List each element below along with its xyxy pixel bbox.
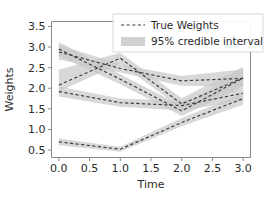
x-tick-label: 0.5 [81,162,99,175]
x-tick-label: 2.5 [204,162,222,175]
chart-figure: 0.00.51.01.52.02.53.0 0.51.01.52.02.53.0… [0,0,277,207]
y-tick-label: 0.5 [28,144,46,157]
x-tick-label: 1.5 [142,162,160,175]
legend-label-true-weights: True Weights [150,19,219,31]
x-tick-label: 2.0 [173,162,191,175]
y-tick-label: 3.0 [28,41,46,54]
weights-credible-interval-chart: 0.00.51.01.52.02.53.0 0.51.01.52.02.53.0… [0,0,277,207]
x-tick-label: 0.0 [50,162,68,175]
x-axis-label: Time [137,178,165,191]
y-tick-label: 2.5 [28,62,46,75]
y-tick-label: 3.5 [28,20,46,33]
y-tick-label: 1.5 [28,103,46,116]
y-tick-label: 1.0 [28,123,46,136]
legend-label-credible-interval: 95% credible interval [151,35,263,47]
legend-band-swatch-icon [121,37,145,46]
y-tick-label: 2.0 [28,82,46,95]
x-tick-label: 3.0 [234,162,252,175]
y-axis-label: Weights [3,67,16,111]
chart-legend: True Weights 95% credible interval [113,14,263,52]
x-tick-label: 1.0 [112,162,130,175]
